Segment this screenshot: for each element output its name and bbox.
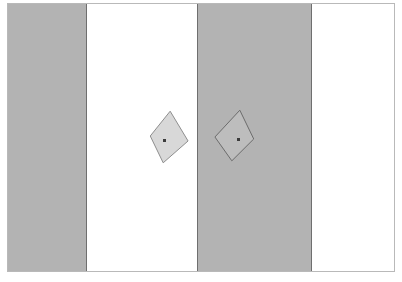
divider-3 xyxy=(311,4,312,271)
band-gray-right xyxy=(198,4,311,271)
band-gray-left xyxy=(8,4,86,271)
kite-right-center-dot xyxy=(237,138,240,141)
screenshot-stage xyxy=(0,0,402,282)
divider-1 xyxy=(86,4,87,271)
figure-frame xyxy=(7,3,395,272)
band-white-right xyxy=(312,4,395,271)
divider-2 xyxy=(197,4,198,271)
kite-left-center-dot xyxy=(163,139,166,142)
band-white-left xyxy=(87,4,197,271)
